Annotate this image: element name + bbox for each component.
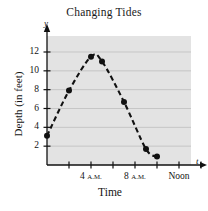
data-point (143, 146, 149, 152)
data-point (88, 54, 94, 60)
y-tick-label: 2 (23, 140, 39, 150)
y-tick-label: 6 (23, 103, 39, 113)
y-tick-label: 4 (23, 121, 39, 131)
y-tick-label: 8 (23, 84, 39, 94)
data-point (121, 99, 127, 105)
data-point (154, 154, 160, 160)
data-point (66, 88, 72, 94)
x-tick-label: 4 A.M. (69, 171, 113, 181)
y-tick-label: 10 (23, 65, 39, 75)
tide-chart-figure: Changing Tides Depth (in feet) Time y t … (0, 0, 208, 211)
y-tick-label: 12 (23, 46, 39, 56)
plot-background (47, 36, 191, 165)
data-point (99, 58, 105, 64)
x-tick-label: 8 A.M. (113, 171, 157, 181)
data-point (44, 133, 50, 139)
x-tick-label: Noon (157, 171, 201, 181)
